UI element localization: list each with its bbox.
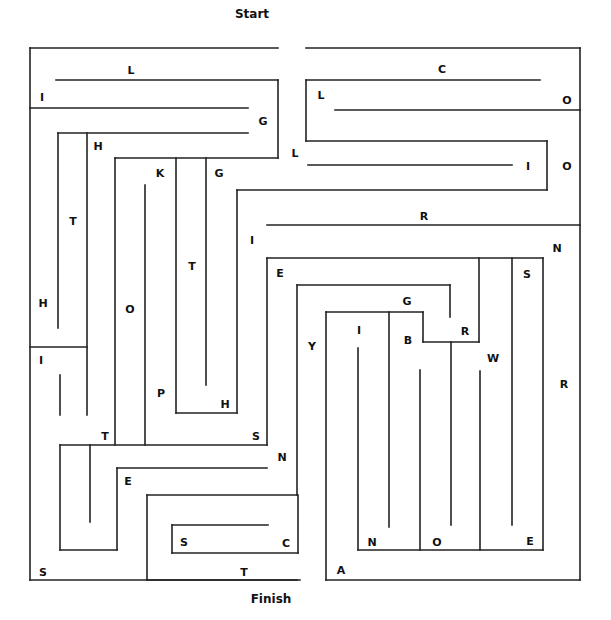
maze-letter: L [317,89,324,102]
maze-letter: S [39,566,47,579]
maze-letter: O [125,303,134,316]
maze-letter: N [277,451,286,464]
start-label: Start [235,7,269,21]
maze-letter: B [404,334,412,347]
maze-letter: Y [308,340,316,353]
maze-diagram [0,0,611,620]
maze-letter: G [402,295,411,308]
maze-letter: W [487,352,499,365]
maze-letter: E [276,267,284,280]
maze-letter: I [39,354,43,367]
maze-letter: O [432,536,441,549]
maze-letter: C [282,537,290,550]
maze-letter: O [562,94,571,107]
maze-letter: H [220,398,229,411]
maze-letter: G [258,115,267,128]
maze-letter: O [562,160,571,173]
maze-letter: N [367,536,376,549]
maze-letter: I [357,324,361,337]
maze-letter: C [438,63,446,76]
maze-letter: E [526,535,534,548]
maze-letter: T [69,215,77,228]
maze-letter: G [214,167,223,180]
maze-walls [30,48,580,580]
maze-letter: N [552,242,561,255]
finish-label: Finish [251,592,292,606]
maze-letter: S [252,430,260,443]
maze-letter: H [93,140,102,153]
maze-letter: R [461,325,469,338]
maze-letter: H [38,297,47,310]
maze-letter: R [560,378,568,391]
maze-letter: T [188,260,196,273]
maze-letter: I [526,160,530,173]
maze-letter: L [127,64,134,77]
maze-letter: R [420,210,428,223]
maze-letter: I [40,91,44,104]
maze-letter: L [291,147,298,160]
maze-letter: I [250,234,254,247]
maze-letter: E [124,475,132,488]
maze-letter: P [157,387,165,400]
maze-letter: T [240,566,248,579]
maze-letter: A [337,564,346,577]
maze-letter: T [101,430,109,443]
maze-letter: K [156,167,165,180]
maze-letter: S [523,268,531,281]
maze-letter: S [180,536,188,549]
